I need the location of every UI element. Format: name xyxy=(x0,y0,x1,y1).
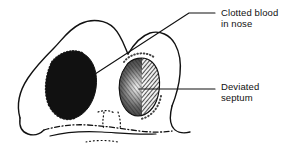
callout-clotted-blood-line1: Clotted blood xyxy=(221,7,278,18)
callout-deviated-septum-line1: Deviated xyxy=(221,81,259,92)
callout-deviated-septum-line2: septum xyxy=(221,92,259,103)
callout-clotted-blood: Clotted blood in nose xyxy=(221,7,278,29)
right-nostril-region xyxy=(114,50,168,122)
callout-deviated-septum: Deviated septum xyxy=(221,81,259,103)
callout-clotted-blood-line2: in nose xyxy=(221,18,278,29)
nose-outline xyxy=(18,21,190,135)
left-nostril-region xyxy=(46,51,97,119)
nose-illustration-figure: Clotted blood in nose Deviated septum xyxy=(0,0,301,154)
